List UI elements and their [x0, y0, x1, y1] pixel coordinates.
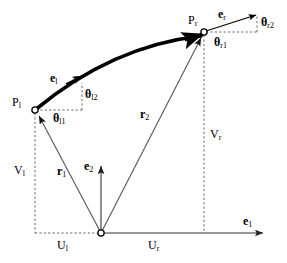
- vector-er-line: [206, 15, 256, 31]
- label-theta-l1: θl1: [53, 112, 66, 124]
- label-theta-r2: θr2: [261, 16, 274, 28]
- construction-lines: [35, 35, 204, 233]
- label-point-right: Pr: [188, 14, 197, 26]
- tangent-vectors: [66, 15, 256, 84]
- node-markers: [32, 29, 207, 236]
- vector-r2-line: [101, 38, 201, 233]
- label-vector-e2: e2: [84, 160, 93, 172]
- vector-r1-line: [39, 116, 101, 233]
- label-vector-el: el: [50, 72, 58, 84]
- label-point-left: Pl: [12, 96, 21, 108]
- vector-geometry-diagram: Pl Pr el er θl2 θl1 θr2 θr1 r1 r2 e2 e1: [0, 0, 287, 263]
- label-vector-r2: r2: [140, 108, 149, 120]
- angle-construction-left: [36, 83, 82, 110]
- node-origin: [98, 230, 104, 236]
- label-u-left: Ul: [57, 239, 68, 251]
- label-v-right: Vr: [210, 128, 221, 140]
- label-vector-er: er: [218, 8, 226, 20]
- node-point-left: [32, 107, 38, 113]
- label-theta-l2: θl2: [85, 88, 98, 100]
- label-u-right: Ur: [148, 239, 159, 251]
- label-v-left: Vl: [14, 164, 25, 176]
- thick-curve-segment: [35, 36, 201, 110]
- position-vectors: [39, 38, 201, 233]
- label-vector-r1: r1: [57, 165, 66, 177]
- label-theta-r1: θr1: [214, 36, 227, 48]
- label-vector-e1: e1: [243, 215, 252, 227]
- node-point-right: [201, 29, 207, 35]
- basis-axes: [101, 166, 263, 233]
